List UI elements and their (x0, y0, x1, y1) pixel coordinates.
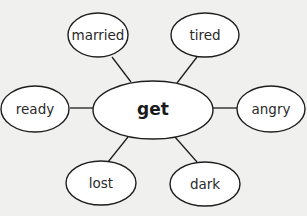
node-dark: dark (170, 162, 240, 206)
node-angry: angry (237, 86, 305, 132)
edge-married (112, 57, 131, 82)
node-label: lost (89, 175, 113, 191)
node-label: angry (252, 101, 291, 117)
node-label: ready (16, 101, 54, 117)
node-label: dark (190, 176, 220, 192)
edge-dark (175, 137, 197, 162)
node-label: tired (189, 27, 220, 43)
word-web-diagram: get married tired ready angry lost dark (0, 0, 307, 216)
node-married: married (68, 13, 128, 57)
diagram-svg: get married tired ready angry lost dark (0, 0, 307, 216)
center-node: get (93, 81, 213, 139)
node-lost: lost (66, 161, 136, 205)
edge-lost (108, 137, 128, 162)
node-label: married (72, 27, 125, 43)
node-ready: ready (1, 86, 69, 132)
edge-tired (177, 57, 197, 83)
node-tired: tired (171, 13, 239, 57)
center-label: get (137, 99, 169, 119)
